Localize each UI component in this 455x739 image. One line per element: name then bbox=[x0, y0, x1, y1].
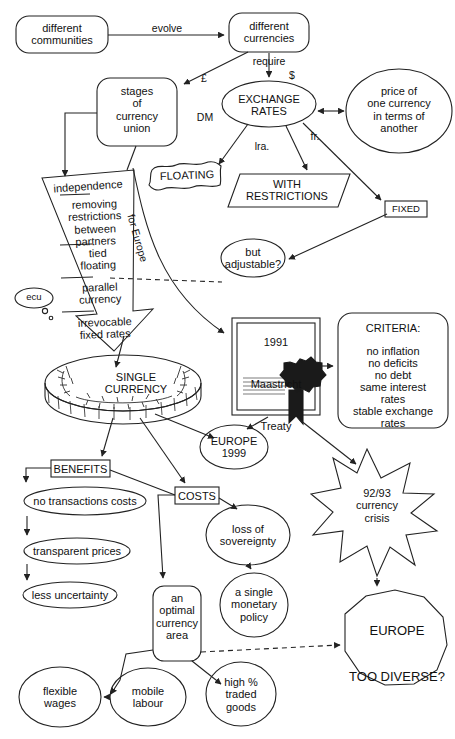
stages-divider-3 bbox=[61, 277, 93, 278]
node-floating[interactable] bbox=[149, 162, 221, 190]
edge-exchange-to-floating bbox=[219, 124, 248, 164]
edge-list-to-single-currency bbox=[116, 336, 124, 367]
node-currency-crisis[interactable] bbox=[311, 449, 437, 576]
edge-tied-floating-dashed bbox=[110, 278, 222, 282]
ecu-bubble-dot-small bbox=[49, 316, 53, 320]
node-mobile-labour[interactable] bbox=[110, 668, 186, 726]
edge-costs-to-loss-of-sovereignty bbox=[219, 498, 237, 509]
edge-benefits-to-optimal-area bbox=[110, 470, 175, 495]
edge-fixed-to-but-adjustable bbox=[289, 214, 387, 259]
maastricht-ribbon bbox=[289, 390, 303, 424]
node-ecu[interactable] bbox=[15, 288, 53, 308]
node-benefits[interactable] bbox=[51, 460, 110, 477]
node-different-communities[interactable] bbox=[16, 16, 108, 53]
node-fixed[interactable] bbox=[385, 201, 427, 217]
edge-exchange-to-fixed bbox=[303, 123, 381, 200]
edge-maastricht-to-crisis bbox=[300, 420, 356, 464]
node-criteria[interactable] bbox=[338, 313, 448, 428]
node-high-pct-traded-goods[interactable] bbox=[206, 662, 276, 726]
edge-benefits-to-chain bbox=[26, 468, 51, 482]
maastricht-seal bbox=[280, 357, 326, 392]
stages-list-arrow[interactable] bbox=[42, 170, 153, 351]
node-europe-1999[interactable] bbox=[200, 425, 268, 469]
ecu-bubble-dot-large bbox=[42, 308, 47, 313]
edge-optimal-to-too-diverse-dashed bbox=[201, 645, 340, 652]
edge-single-currency-to-europe1999 bbox=[155, 414, 214, 438]
edge-stages-to-arrowbody bbox=[127, 146, 136, 170]
stages-divider-4 bbox=[62, 311, 94, 312]
node-costs[interactable] bbox=[175, 487, 219, 504]
node-loss-of-sovereignty[interactable] bbox=[206, 505, 290, 565]
edge-costs-branch-to-optimal bbox=[158, 495, 175, 578]
node-flexible-wages[interactable] bbox=[19, 667, 101, 727]
node-transparent-prices[interactable] bbox=[24, 538, 130, 564]
concept-map-canvas: different communities different currenci… bbox=[0, 0, 455, 739]
node-stages-of-currency-union[interactable] bbox=[97, 78, 177, 146]
laurel-wreath bbox=[57, 366, 190, 409]
node-europe-too-diverse[interactable] bbox=[345, 590, 447, 685]
node-with-restrictions[interactable] bbox=[228, 174, 350, 207]
node-different-currencies[interactable] bbox=[229, 13, 309, 52]
maastricht-text-lines bbox=[243, 378, 285, 394]
edge-currencies-to-stages bbox=[184, 52, 248, 84]
node-price-of-one-currency[interactable] bbox=[346, 69, 452, 153]
node-an-optimal-currency-area[interactable] bbox=[153, 586, 201, 661]
edge-exchange-to-with-restrictions bbox=[286, 126, 307, 170]
stages-divider-2 bbox=[60, 244, 92, 245]
edge-single-currency-to-costs bbox=[140, 418, 185, 483]
edge-optimal-to-high-traded bbox=[192, 661, 221, 684]
stages-divider-1 bbox=[60, 194, 90, 195]
node-exchange-rates[interactable] bbox=[222, 81, 316, 127]
diagram-vector-layer bbox=[0, 0, 455, 739]
node-less-uncertainty[interactable] bbox=[23, 582, 117, 608]
node-but-adjustable[interactable] bbox=[221, 239, 285, 277]
node-a-single-monetary-policy[interactable] bbox=[220, 573, 288, 637]
node-no-transactions-costs[interactable] bbox=[24, 487, 146, 515]
edge-stages-to-list bbox=[65, 113, 97, 176]
edge-maastricht-to-europe1999 bbox=[247, 417, 268, 429]
edge-loss-to-single-monetary bbox=[249, 566, 251, 569]
coin-edge-ticks bbox=[48, 387, 197, 420]
edge-optimal-to-mobile-labour bbox=[111, 650, 153, 694]
edge-for-europe-curve bbox=[133, 168, 224, 333]
